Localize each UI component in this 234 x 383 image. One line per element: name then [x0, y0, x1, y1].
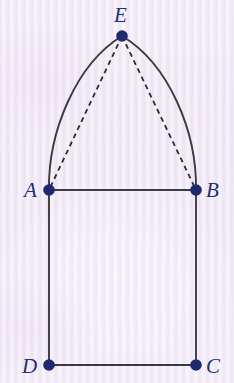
dashed-chords [49, 36, 196, 190]
vertex-label-C: C [206, 354, 221, 378]
chord-EA [49, 36, 122, 190]
rectangle-abcd [49, 190, 196, 365]
vertex-dot-E[interactable] [116, 30, 128, 42]
chord-EB [122, 36, 196, 190]
vertex-dot-B[interactable] [190, 184, 202, 196]
figure-canvas: E A B D C [0, 0, 234, 383]
vertex-label-D: D [21, 354, 37, 378]
vertex-label-B: B [206, 178, 219, 202]
geometry-figure: E A B D C [0, 0, 234, 383]
vertex-dot-D[interactable] [43, 359, 55, 371]
vertex-label-A: A [22, 178, 37, 202]
vertex-dot-C[interactable] [190, 359, 202, 371]
vertex-dots [43, 30, 202, 371]
pointed-arch [49, 36, 196, 190]
vertex-label-E: E [113, 3, 127, 27]
vertex-dot-A[interactable] [43, 184, 55, 196]
